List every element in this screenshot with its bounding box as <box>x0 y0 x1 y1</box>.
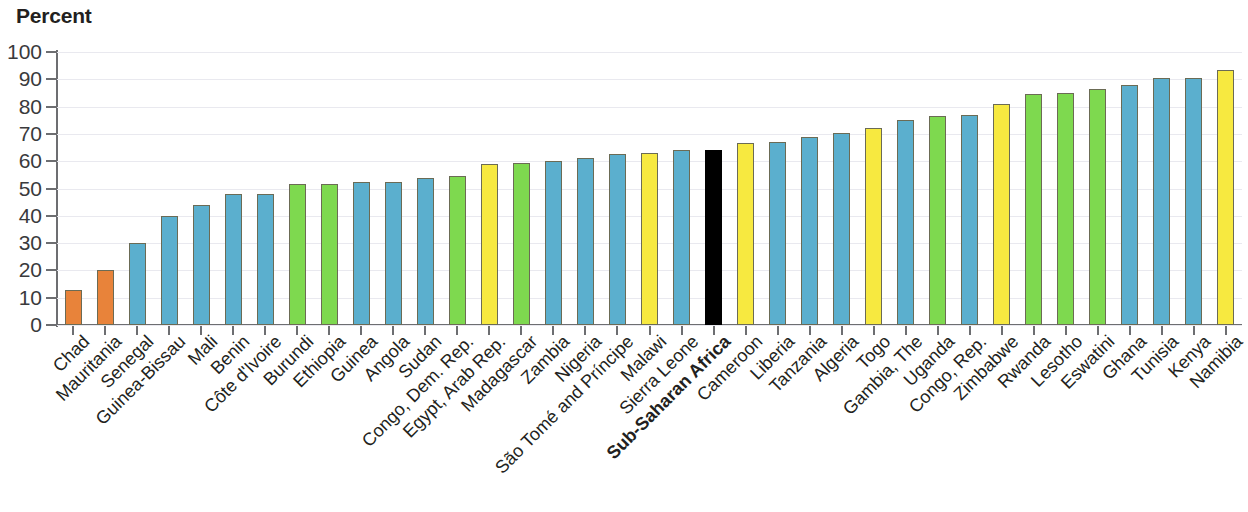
y-axis-tick-mark <box>46 78 57 80</box>
bar <box>833 133 850 325</box>
x-axis-tick-mark <box>488 326 490 335</box>
x-axis-tick-mark <box>328 326 330 335</box>
x-axis-tick-mark <box>1065 326 1067 335</box>
gridline <box>57 52 1242 53</box>
x-axis-tick-mark <box>681 326 683 335</box>
plot-area <box>57 52 1242 325</box>
y-axis-tick-label: 60 <box>19 150 42 171</box>
x-axis-tick-mark <box>168 326 170 335</box>
bar <box>737 143 754 325</box>
x-axis-tick-mark <box>1001 326 1003 335</box>
x-axis-tick-mark <box>264 326 266 335</box>
bar <box>1121 85 1138 325</box>
bar <box>257 194 274 325</box>
x-axis-tick-mark <box>1161 326 1163 335</box>
bar <box>769 142 786 325</box>
bar <box>801 137 818 325</box>
y-axis-tick-mark <box>46 269 57 271</box>
x-axis-tick-mark <box>713 326 715 335</box>
y-axis-tick-mark <box>46 188 57 190</box>
x-axis-tick-mark <box>937 326 939 335</box>
bar <box>673 150 690 325</box>
bar <box>705 150 722 325</box>
x-axis-tick-mark <box>104 326 106 335</box>
y-axis-tick-mark <box>46 133 57 135</box>
bar <box>161 216 178 325</box>
y-axis-tick-mark <box>46 242 57 244</box>
x-axis-tick-mark <box>392 326 394 335</box>
x-axis-tick-mark <box>136 326 138 335</box>
y-axis-tick-label: 80 <box>19 96 42 117</box>
x-axis-tick-mark <box>1129 326 1131 335</box>
bar <box>609 154 626 325</box>
x-axis-tick-mark <box>424 326 426 335</box>
y-axis-tick-label: 10 <box>19 287 42 308</box>
x-axis-tick-mark <box>616 326 618 335</box>
bar <box>193 205 210 325</box>
x-axis-tick-mark <box>296 326 298 335</box>
y-axis-tick-label: 90 <box>19 68 42 89</box>
y-axis-tick-mark <box>46 215 57 217</box>
bar <box>1185 78 1202 325</box>
x-axis-tick-mark <box>584 326 586 335</box>
y-axis-tick-mark <box>46 51 57 53</box>
bar <box>353 182 370 325</box>
y-axis-tick-label: 70 <box>19 123 42 144</box>
bar-chart: Percent 1009080706050403020100 ChadMauri… <box>0 0 1248 512</box>
y-axis-tick-label: 0 <box>30 314 42 335</box>
bar <box>449 176 466 325</box>
bar <box>321 184 338 325</box>
bar <box>545 161 562 325</box>
x-axis-tick-mark <box>745 326 747 335</box>
bar <box>897 120 914 325</box>
bar <box>577 158 594 325</box>
bar <box>65 290 82 325</box>
x-axis-tick-mark <box>200 326 202 335</box>
y-axis-tick-label: 20 <box>19 259 42 280</box>
x-axis-tick-mark <box>649 326 651 335</box>
y-axis-tick-label: 40 <box>19 205 42 226</box>
x-axis-tick-mark <box>1225 326 1227 335</box>
bar <box>865 128 882 325</box>
x-axis-tick-mark <box>873 326 875 335</box>
x-axis-tick-mark <box>456 326 458 335</box>
y-axis-tick-mark <box>46 324 57 326</box>
bar <box>289 184 306 325</box>
bar <box>513 163 530 325</box>
y-axis-tick-mark <box>46 106 57 108</box>
bar <box>641 153 658 325</box>
x-axis-tick-mark <box>841 326 843 335</box>
y-axis-tick-mark <box>46 297 57 299</box>
x-axis-tick-mark <box>232 326 234 335</box>
y-axis-tick-label: 100 <box>7 41 42 62</box>
bar <box>1153 78 1170 325</box>
bar <box>929 116 946 325</box>
bar <box>129 243 146 325</box>
y-axis-tick-mark <box>46 160 57 162</box>
gridline <box>57 79 1242 80</box>
y-axis-title: Percent <box>16 4 92 28</box>
x-axis-tick-mark <box>809 326 811 335</box>
x-axis-tick-mark <box>72 326 74 335</box>
bar <box>385 182 402 325</box>
x-axis-tick-mark <box>360 326 362 335</box>
y-axis-tick-label: 50 <box>19 178 42 199</box>
x-axis-tick-mark <box>520 326 522 335</box>
y-axis-tick-label: 30 <box>19 232 42 253</box>
bar <box>1089 89 1106 325</box>
x-axis-tick-mark <box>1097 326 1099 335</box>
bar <box>481 164 498 325</box>
x-axis-tick-mark <box>552 326 554 335</box>
bar <box>225 194 242 325</box>
bar <box>1057 93 1074 325</box>
bar <box>97 270 114 325</box>
x-axis-tick-mark <box>777 326 779 335</box>
bar <box>1025 94 1042 325</box>
bar <box>993 104 1010 325</box>
x-axis-tick-mark <box>905 326 907 335</box>
x-axis-tick-mark <box>969 326 971 335</box>
x-axis-tick-mark <box>1193 326 1195 335</box>
bar <box>417 178 434 325</box>
bar <box>1217 70 1234 325</box>
bar <box>961 115 978 325</box>
